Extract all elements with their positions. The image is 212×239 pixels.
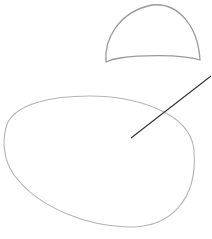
pointer-line xyxy=(131,76,211,138)
sketch-drawing xyxy=(0,0,212,239)
oval-shape xyxy=(4,96,194,227)
dome-shape xyxy=(106,5,200,62)
sketch-canvas xyxy=(0,0,212,239)
